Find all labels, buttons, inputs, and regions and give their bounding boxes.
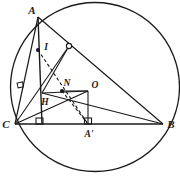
label-vertex-C: C bbox=[2, 118, 10, 130]
label-vertex-A: A bbox=[27, 4, 35, 16]
label-point-I: I bbox=[43, 42, 48, 52]
label-point-N: N bbox=[63, 78, 72, 88]
incenter-point-marker bbox=[36, 48, 40, 52]
geometry-canvas: A B C H I N O A' bbox=[0, 0, 180, 186]
midpoint-AB-marker bbox=[66, 43, 71, 48]
right-angle-mark-on-CA bbox=[17, 82, 23, 88]
altitude-from-A bbox=[38, 17, 42, 124]
label-point-O: O bbox=[92, 80, 99, 90]
label-vertex-B: B bbox=[166, 118, 174, 130]
label-point-A-prime: A' bbox=[84, 129, 94, 139]
nine-point-center-marker bbox=[60, 89, 64, 93]
label-point-H: H bbox=[40, 97, 49, 107]
geometry-figure: A B C H I N O A' bbox=[0, 0, 180, 186]
